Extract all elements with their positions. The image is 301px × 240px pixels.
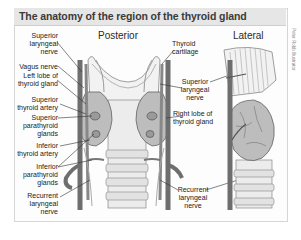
label-text: Thyroid cartilage [172, 40, 198, 55]
label-text: Inferior parathyroid glands [23, 163, 58, 186]
label-recurrent-laryngeal-nerve-right: Recurrent laryngeal nerve [174, 186, 212, 210]
label-text: Vagus nerve [19, 63, 58, 70]
label-inferior-thyroid-artery: Inferior thyroid artery [10, 142, 58, 158]
label-superior-thyroid-artery: Superior thyroid artery [10, 96, 58, 112]
label-text: Right lobe of thyroid gland [173, 110, 213, 125]
label-text: Superior laryngeal nerve [181, 78, 209, 101]
label-inferior-parathyroid-glands: Inferior parathyroid glands [10, 163, 58, 187]
label-text: Recurrent laryngeal nerve [27, 192, 58, 215]
label-thyroid-cartilage: Thyroid cartilage [172, 40, 198, 56]
label-text: Left lobe of thyroid gland [18, 72, 58, 87]
label-right-lobe-thyroid: Right lobe of thyroid gland [173, 110, 213, 126]
label-text: Superior laryngeal nerve [30, 32, 58, 55]
label-superior-laryngeal-nerve-right: Superior laryngeal nerve [178, 78, 212, 102]
label-text: Superior thyroid artery [17, 96, 58, 111]
label-text: Recurrent laryngeal nerve [178, 186, 209, 209]
posterior-view [66, 56, 182, 210]
illustrator-credit: Peter Robb Illustrator [286, 28, 296, 88]
label-text: Superior parathyroid glands [23, 114, 58, 137]
label-superior-parathyroid-glands: Superior parathyroid glands [10, 114, 58, 138]
label-text: Inferior thyroid artery [17, 142, 58, 157]
label-recurrent-laryngeal-nerve-left: Recurrent laryngeal nerve [10, 192, 58, 216]
label-left-lobe-thyroid: Left lobe of thyroid gland [10, 72, 58, 88]
label-vagus-nerve: Vagus nerve [10, 63, 58, 71]
label-superior-laryngeal-nerve-left: Superior laryngeal nerve [20, 32, 58, 56]
lateral-view [224, 47, 276, 210]
